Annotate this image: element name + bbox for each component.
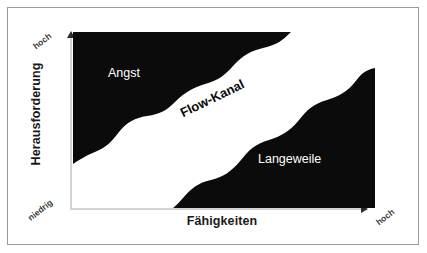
- flow-channel-figure: hoch niedrig hoch Herausforderung Fähigk…: [0, 0, 427, 253]
- flow-band-shape: [73, 32, 375, 208]
- plot-area: Angst Flow-Kanal Langeweile: [73, 32, 375, 208]
- y-axis-title: Herausforderung: [29, 49, 43, 179]
- y-axis-line: [70, 37, 72, 210]
- x-axis-title: Fähigkeiten: [132, 214, 312, 228]
- flow-channel-band: [73, 32, 375, 208]
- region-label-angst: Angst: [108, 66, 140, 80]
- region-label-langeweile: Langeweile: [258, 152, 321, 166]
- x-axis-line: [70, 208, 366, 210]
